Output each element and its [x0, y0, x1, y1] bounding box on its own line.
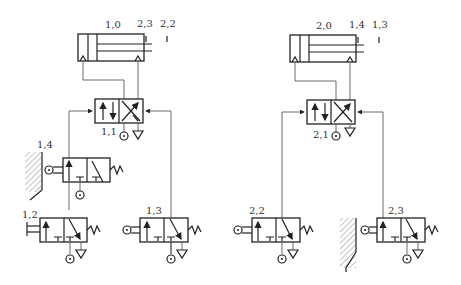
valve-1-3 — [123, 218, 201, 263]
label-2-3: 2,3 — [388, 205, 404, 216]
label-1-3-top: 1,3 — [372, 19, 388, 30]
label-2-1: 2,1 — [313, 129, 329, 140]
label-1-3: 1,3 — [146, 205, 162, 216]
cylinder-2-0 — [290, 35, 379, 62]
label-2-2-top: 2,2 — [160, 18, 176, 29]
circuit-2: 2,0 1,4 1,3 2,1 — [234, 19, 438, 272]
circuit-1: 1,0 2,3 2,2 1,1 — [22, 18, 201, 263]
valve-1-4 — [25, 152, 123, 200]
label-1-1: 1,1 — [101, 126, 117, 137]
label-2-2: 2,2 — [249, 205, 265, 216]
valve-2-3 — [340, 218, 438, 272]
label-1-4: 1,4 — [37, 139, 53, 150]
label-2-3-top: 2,3 — [137, 18, 153, 29]
label-1-4-top: 1,4 — [349, 19, 365, 30]
cylinder-1-0 — [78, 34, 167, 61]
pneumatic-diagram: 1,0 2,3 2,2 1,1 — [0, 0, 461, 285]
valve-2-2 — [234, 218, 313, 263]
label-1-0: 1,0 — [105, 19, 121, 30]
label-1-2: 1,2 — [22, 209, 38, 220]
label-2-0: 2,0 — [316, 20, 332, 31]
valve-1-2 — [27, 218, 100, 263]
